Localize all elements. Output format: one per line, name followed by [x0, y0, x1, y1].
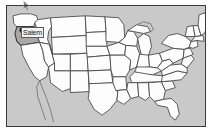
state-michigan[interactable] — [138, 34, 152, 57]
state-wyoming[interactable] — [52, 36, 88, 55]
baja-california-coastline — [37, 81, 54, 122]
state-pennsylvania[interactable] — [159, 48, 184, 63]
state-tennessee[interactable] — [130, 72, 164, 83]
state-north-dakota[interactable] — [85, 16, 106, 33]
map-frame: Salem — [6, 5, 206, 127]
state-florida[interactable] — [155, 98, 180, 120]
state-alabama[interactable] — [138, 83, 150, 101]
us-states-map[interactable] — [7, 6, 205, 126]
state-washington[interactable] — [13, 14, 38, 27]
state-south-dakota[interactable] — [86, 32, 107, 47]
state-kansas[interactable] — [87, 55, 111, 71]
state-arkansas[interactable] — [113, 77, 127, 91]
salem-city-label: Salem — [21, 27, 44, 38]
state-colorado[interactable] — [70, 53, 88, 71]
state-oklahoma[interactable] — [88, 70, 113, 84]
screenshot-root: Salem — [0, 0, 212, 132]
mouse-pointer-icon — [23, 0, 32, 11]
state-missouri[interactable] — [110, 55, 131, 77]
state-minnesota[interactable] — [105, 17, 125, 43]
state-montana[interactable] — [51, 16, 87, 38]
state-texas[interactable] — [88, 83, 118, 115]
state-new-mexico[interactable] — [70, 71, 89, 93]
